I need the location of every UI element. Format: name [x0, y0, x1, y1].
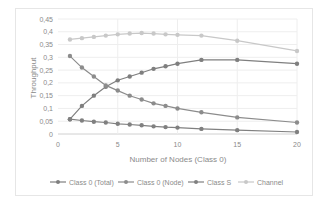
legend-item: Class 0 (Total): [50, 179, 114, 187]
data-point-marker: [68, 54, 72, 58]
data-point-marker: [295, 130, 299, 134]
data-point-marker: [128, 74, 132, 78]
y-tick-label: 0,1: [43, 105, 53, 112]
data-point-marker: [163, 64, 167, 68]
data-point-marker: [116, 78, 120, 82]
data-point-marker: [116, 88, 120, 92]
data-point-marker: [175, 125, 179, 129]
data-point-marker: [151, 31, 155, 35]
data-point-marker: [295, 120, 299, 124]
data-point-marker: [235, 128, 239, 132]
data-point-marker: [163, 125, 167, 129]
y-tick-label: 0,15: [39, 92, 53, 99]
data-point-marker: [199, 58, 203, 62]
data-point-marker: [163, 32, 167, 36]
legend: Class 0 (Total)Class 0 (Node)Class SChan…: [50, 179, 284, 187]
data-point-marker: [92, 93, 96, 97]
data-point-marker: [80, 36, 84, 40]
legend-label: Class 0 (Total): [69, 179, 114, 187]
data-point-marker: [163, 104, 167, 108]
data-point-marker: [199, 33, 203, 37]
data-point-marker: [139, 97, 143, 101]
data-point-marker: [175, 33, 179, 37]
legend-label: Class S: [207, 179, 231, 186]
x-tick-label: 20: [293, 141, 301, 148]
data-point-marker: [128, 31, 132, 35]
data-point-marker: [199, 127, 203, 131]
legend-item: Channel: [238, 179, 284, 186]
data-point-marker: [151, 101, 155, 105]
y-axis-label: Throughput: [29, 57, 38, 99]
data-point-marker: [295, 49, 299, 53]
data-point-marker: [199, 110, 203, 114]
x-tick-label: 5: [116, 141, 120, 148]
legend-item: Class 0 (Node): [118, 179, 184, 187]
legend-item: Class S: [188, 179, 231, 186]
x-axis-ticks: 05101520: [56, 141, 301, 148]
data-point-marker: [139, 31, 143, 35]
line-chart: 00,050,10,150,20,250,30,350,40,45 051015…: [0, 0, 326, 207]
y-axis-ticks: 00,050,10,150,20,250,30,350,40,45: [39, 16, 53, 138]
data-point-marker: [92, 120, 96, 124]
data-point-marker: [104, 83, 108, 87]
data-point-marker: [80, 104, 84, 108]
series-channel: [68, 31, 299, 53]
y-tick-label: 0,3: [43, 54, 53, 61]
data-point-marker: [116, 32, 120, 36]
x-tick-label: 15: [233, 141, 241, 148]
y-tick-label: 0,25: [39, 67, 53, 74]
legend-label: Class 0 (Node): [137, 179, 184, 187]
data-point-marker: [116, 122, 120, 126]
data-point-marker: [235, 39, 239, 43]
data-point-marker: [68, 37, 72, 41]
x-axis-label: Number of Nodes (Class 0): [130, 155, 227, 164]
y-tick-label: 0,45: [39, 16, 53, 23]
data-point-marker: [92, 35, 96, 39]
data-point-marker: [104, 120, 108, 124]
y-tick-label: 0,4: [43, 28, 53, 35]
data-point-marker: [80, 65, 84, 69]
legend-label: Channel: [257, 179, 284, 186]
data-point-marker: [151, 124, 155, 128]
y-tick-label: 0,05: [39, 118, 53, 125]
data-point-marker: [80, 118, 84, 122]
x-tick-label: 10: [174, 141, 182, 148]
data-point-marker: [175, 62, 179, 66]
data-point-marker: [104, 33, 108, 37]
data-point-marker: [128, 122, 132, 126]
data-point-marker: [139, 70, 143, 74]
data-point-marker: [68, 117, 72, 121]
y-tick-label: 0,2: [43, 79, 53, 86]
y-tick-label: 0,35: [39, 41, 53, 48]
data-point-marker: [295, 62, 299, 66]
y-tick-label: 0: [49, 131, 53, 138]
data-point-marker: [139, 123, 143, 127]
data-point-marker: [235, 58, 239, 62]
series-class-0-total: [68, 58, 299, 122]
data-point-marker: [175, 106, 179, 110]
data-point-marker: [128, 93, 132, 97]
data-point-marker: [151, 67, 155, 71]
x-tick-label: 0: [56, 141, 60, 148]
data-point-marker: [92, 74, 96, 78]
data-point-marker: [235, 115, 239, 119]
